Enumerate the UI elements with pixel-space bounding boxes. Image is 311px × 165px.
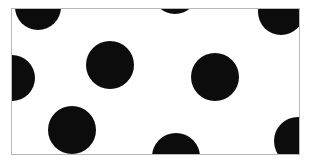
sphere-bottom-center [152,133,200,154]
sphere-top-center [152,9,198,14]
sphere-layer [12,9,299,154]
figure-root [0,0,311,165]
rectangular-border [11,8,300,155]
sphere-bottom-left [48,106,96,154]
sphere-left-edge [12,55,35,101]
sphere-bottom-right [274,117,299,154]
sphere-top-left [15,9,61,30]
sphere-top-right [258,9,299,35]
sphere-center-right [191,53,239,101]
sphere-center-left [86,41,134,89]
